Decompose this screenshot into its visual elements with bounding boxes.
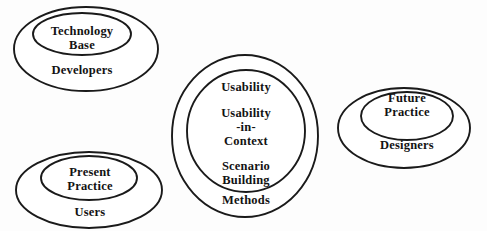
future-practice-label: FuturePractice xyxy=(357,91,457,119)
usability-in-context-label: Usability-in-Context xyxy=(196,106,296,148)
designers-label: Designers xyxy=(357,138,457,152)
methods-label: Methods xyxy=(196,193,296,207)
users-label: Users xyxy=(40,205,140,219)
technology-base-label: TechnologyBase xyxy=(32,24,132,52)
scenario-building-label: ScenarioBuilding xyxy=(196,159,296,187)
diagram-canvas: TechnologyBase Developers PresentPractic… xyxy=(0,0,487,231)
usability-label: Usability xyxy=(196,80,296,94)
present-practice-label: PresentPractice xyxy=(40,165,140,193)
developers-label: Developers xyxy=(32,63,132,77)
